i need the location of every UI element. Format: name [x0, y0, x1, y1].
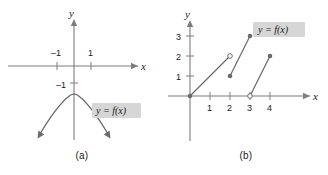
panel-a: x y –1 1 –1 y = f(x) (a)	[0, 0, 164, 175]
panel-b: x y 1 2 3 4 1 2 3	[164, 0, 328, 175]
panel-b-plot: x y 1 2 3 4 1 2 3	[164, 0, 328, 150]
function-label-a: y = f(x)	[95, 105, 127, 117]
segment-1-end-open-point	[228, 54, 233, 59]
segment-2-end-closed-point	[248, 34, 253, 39]
figure-container: x y –1 1 –1 y = f(x) (a)	[0, 0, 328, 175]
y-axis-label: y	[184, 8, 190, 20]
panel-b-caption: (b)	[164, 150, 328, 161]
y-tick-label-2: 2	[176, 52, 181, 62]
function-label-b: y = f(x)	[257, 24, 289, 36]
segment-3	[250, 56, 270, 96]
segment-1	[190, 56, 230, 96]
x-axis-label: x	[312, 90, 318, 102]
segment-3-start-open-point	[248, 94, 253, 99]
x-tick-label-1: 1	[207, 103, 212, 113]
y-axis-label: y	[68, 7, 74, 19]
y-tick-label-3: 3	[176, 32, 181, 42]
x-tick-label-neg1: –1	[51, 48, 61, 58]
segment-2	[230, 36, 250, 76]
segment-1-start-closed-point	[188, 94, 193, 99]
panel-a-plot: x y –1 1 –1 y = f(x)	[0, 0, 164, 150]
segment-2-start-closed-point	[228, 74, 233, 79]
panel-a-caption: (a)	[0, 150, 164, 161]
y-tick-label-1: 1	[176, 72, 181, 82]
x-tick-label-1: 1	[88, 48, 93, 58]
x-tick-label-2: 2	[227, 103, 232, 113]
y-axis-arrow-icon	[187, 20, 193, 27]
y-axis-arrow-icon	[71, 19, 77, 26]
y-tick-label-neg1: –1	[56, 80, 66, 90]
x-axis-arrow-icon	[303, 93, 310, 99]
x-axis-arrow-icon	[131, 63, 138, 69]
x-axis-label: x	[140, 60, 146, 72]
x-tick-label-4: 4	[267, 103, 272, 113]
x-tick-label-3: 3	[247, 103, 252, 113]
segment-3-end-closed-point	[268, 54, 273, 59]
